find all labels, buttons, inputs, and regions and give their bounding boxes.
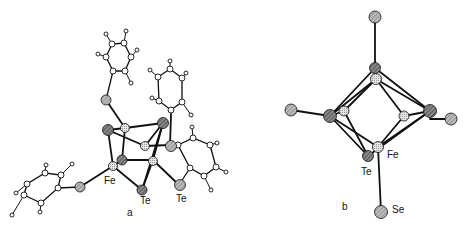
fe-atom — [339, 106, 349, 116]
fe-atom — [399, 111, 409, 121]
te-atom — [424, 105, 437, 118]
te-atom — [101, 95, 111, 105]
panel-b-atoms — [285, 11, 457, 219]
panel-a-te-label-1: Te — [140, 195, 151, 206]
panel-b-structure: Fe Te Se b — [285, 11, 457, 219]
panel-a-label: a — [127, 207, 133, 218]
panel-a-core-bonds — [80, 100, 179, 190]
te-atom — [103, 125, 114, 136]
molecular-structure-figure: Fe Te Te a — [0, 0, 463, 225]
panel-a-te-label-2: Te — [176, 193, 187, 204]
fe-atom — [371, 74, 382, 85]
te-atom — [117, 155, 127, 165]
panel-a-fe-label: Fe — [104, 175, 116, 186]
phenyl-ring-lower-left — [10, 162, 80, 217]
panel-b-te-label: Te — [361, 166, 372, 177]
te-atom — [175, 180, 186, 191]
panel-b-fe-label: Fe — [387, 149, 399, 160]
te-atom — [324, 110, 337, 123]
fe-atom — [373, 142, 384, 153]
te-atom — [75, 182, 85, 192]
phenyl-ring-upper-right — [148, 59, 193, 117]
panel-a-structure: Fe Te Te a — [10, 29, 228, 218]
se-atom — [445, 113, 457, 125]
te-atom — [363, 151, 374, 162]
panel-b-se-label: Se — [392, 204, 405, 215]
fe-atom — [141, 142, 150, 151]
fe-atom — [109, 162, 118, 171]
panel-b-label: b — [342, 201, 348, 212]
se-atom — [285, 104, 297, 116]
te-atom — [137, 185, 147, 195]
te-atom — [166, 141, 177, 152]
fe-atom — [121, 124, 130, 133]
se-atom — [375, 206, 388, 219]
se-atom — [369, 11, 381, 23]
te-atom — [370, 63, 381, 74]
te-atom — [158, 118, 169, 129]
phenyl-ring-top — [96, 29, 139, 100]
fe-atom — [149, 157, 158, 166]
